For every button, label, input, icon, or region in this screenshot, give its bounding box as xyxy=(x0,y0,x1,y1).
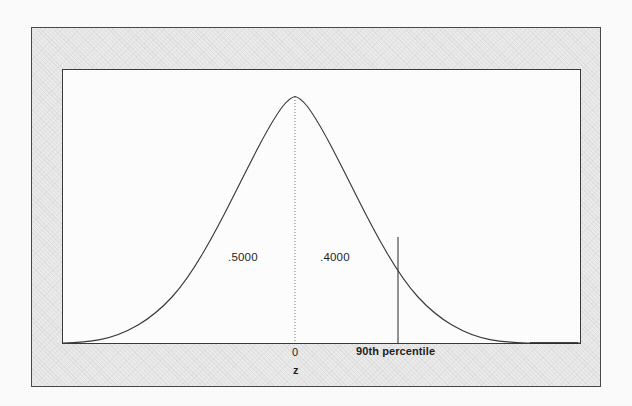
normal-distribution-curve xyxy=(63,97,580,344)
area-label-right: .4000 xyxy=(320,252,350,264)
x-axis-title: z xyxy=(293,365,299,376)
x-axis-tick-label-zero: 0 xyxy=(292,347,298,358)
figure-root: .5000 .4000 0 90th percentile z xyxy=(0,0,632,406)
x-axis-label-90th-percentile: 90th percentile xyxy=(356,346,435,357)
normal-curve-plot xyxy=(62,69,581,344)
area-label-left: .5000 xyxy=(228,252,258,264)
